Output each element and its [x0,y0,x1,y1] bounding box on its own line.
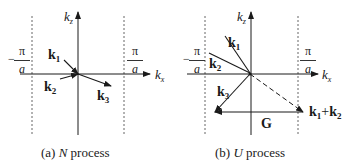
origin-point [249,73,252,76]
bz-left-bound-label: π a [189,44,205,77]
panel-b-graphics [187,12,318,135]
bz-left-bound-label: π a [14,44,30,77]
panel-a-caption: (a) N process [41,145,110,161]
label-k1-plus-k2: k1+k2 [309,105,342,121]
label-G: G [261,117,272,131]
label-k1: k1 [228,36,240,52]
panel-b-caption: (b) U process [215,145,285,161]
bz-right-bound-label: π a [127,44,143,77]
label-k2: k2 [209,57,221,73]
bz-right-bound-label: π a [300,44,316,77]
kx-axis-label: kx [155,68,164,84]
vector-k1-plus-k2-dashed [250,74,303,112]
vector-k3 [78,74,111,86]
kz-axis-label: kz [237,10,246,26]
label-k2: k2 [44,80,56,96]
vector-k1 [64,60,78,74]
label-k3: k3 [217,85,229,101]
kx-axis-label: kx [322,68,331,84]
kz-axis-label: kz [64,10,73,26]
label-k3: k3 [97,89,109,105]
label-k1: k1 [48,48,60,64]
vector-k2 [60,74,78,79]
